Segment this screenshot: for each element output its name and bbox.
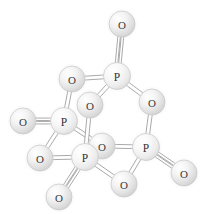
molecule-svg: OPOOOPOPOPOOOO (0, 0, 204, 214)
molecule-diagram: OPOOOPOPOPOOOO (0, 0, 204, 214)
atom-layer: OPOOOPOPOPOOOO (7, 8, 200, 213)
atom-sphere (72, 144, 99, 171)
atom-sphere (10, 108, 36, 134)
atom-o3-o: O (136, 86, 168, 118)
atom-p4-p: P (68, 140, 101, 173)
atom-sphere (27, 145, 53, 171)
atom-sphere (46, 184, 72, 210)
atom-o7-o: O (24, 142, 56, 174)
atom-sphere (51, 108, 78, 135)
atom-p2-p: P (47, 104, 80, 137)
atom-sphere (111, 171, 137, 197)
atom-sphere (77, 92, 103, 118)
atom-o8-o: O (168, 157, 200, 189)
atom-sphere (133, 134, 160, 161)
atom-sphere (171, 160, 197, 186)
atom-sphere (104, 63, 131, 90)
atom-sphere (109, 11, 135, 37)
atom-p1-p: P (100, 59, 133, 92)
atom-o5-o: O (7, 105, 39, 137)
atom-o10-o: O (43, 181, 75, 213)
atom-sphere (59, 66, 85, 92)
atom-o9-o: O (108, 168, 140, 200)
atom-o1-o: O (106, 8, 138, 40)
atom-p3-p: P (129, 130, 162, 163)
atom-sphere (139, 89, 165, 115)
